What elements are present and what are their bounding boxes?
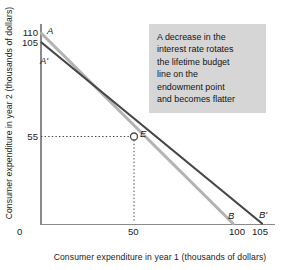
y-tick-105: 105 (22, 37, 38, 48)
x-tick-100: 100 (229, 226, 245, 237)
y-tick-55: 55 (27, 131, 38, 142)
annotation-line-4: line on the (157, 68, 259, 80)
x-tick-50: 50 (128, 226, 139, 237)
point-label-A: A (47, 25, 53, 36)
x-tick-105: 105 (252, 226, 268, 237)
endowment-point-marker (131, 133, 138, 140)
point-label-B-prime: B' (259, 209, 267, 220)
annotation-line-3: the lifetime budget (157, 56, 259, 68)
x-axis-line (40, 224, 275, 226)
annotation-line-5: endowment point (157, 81, 259, 93)
annotation-line-6: and becomes flatter (157, 93, 259, 105)
annotation-line-2: interest rate rotates (157, 43, 259, 55)
point-label-E: E (140, 128, 146, 139)
annotation-line-1: A decrease in the (157, 31, 259, 43)
annotation-callout: A decrease in the interest rate rotates … (149, 24, 266, 113)
budget-line-chart: Consumer expenditure in year 2 (thousand… (0, 0, 282, 270)
x-tick-0: 0 (17, 226, 22, 237)
x-axis-label: Consumer expenditure in year 1 (thousand… (38, 252, 282, 262)
point-label-A-prime: A' (40, 55, 48, 66)
point-label-B: B (228, 210, 234, 221)
